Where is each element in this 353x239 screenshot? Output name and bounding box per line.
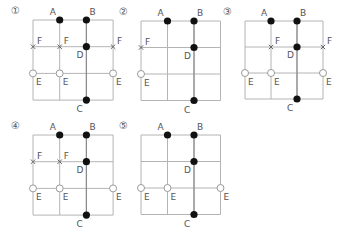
grid-diagram-3: ③EEEFFABDC — [223, 6, 332, 113]
point-label: F — [64, 151, 69, 161]
solid-dot-icon — [293, 95, 300, 102]
point-label: A — [50, 122, 57, 132]
point-label: C — [184, 105, 190, 115]
solid-dot-icon — [190, 97, 197, 104]
point-label: F — [37, 36, 42, 46]
solid-dot-icon — [83, 97, 90, 104]
solid-dot-icon — [293, 17, 300, 24]
solid-dot-icon — [83, 43, 90, 50]
open-circle-icon — [242, 70, 249, 77]
solid-dot-icon — [190, 211, 197, 218]
solid-dot-icon — [190, 44, 197, 51]
point-label: B — [89, 7, 95, 17]
solid-dot-icon — [164, 131, 171, 138]
solid-dot-icon — [164, 17, 171, 24]
grid-lines — [141, 21, 221, 101]
point-label: E — [224, 192, 230, 202]
diagram-number: ② — [119, 6, 128, 17]
point-label: F — [275, 36, 280, 46]
point-label: E — [63, 77, 69, 87]
open-circle-icon — [30, 185, 37, 192]
solid-dot-icon — [190, 17, 197, 24]
point-label: B — [197, 122, 203, 132]
open-circle-icon — [110, 185, 117, 192]
point-label: E — [116, 77, 122, 87]
open-circle-icon — [56, 185, 63, 192]
solid-dot-icon — [83, 16, 90, 23]
open-circle-icon — [320, 70, 327, 77]
point-label: E — [144, 192, 150, 202]
open-circle-icon — [138, 71, 145, 78]
solid-dot-icon — [83, 212, 90, 219]
point-label: F — [145, 37, 150, 47]
grid-diagram-5: ⑤EEEABDC — [119, 120, 230, 229]
open-circle-icon — [56, 70, 63, 77]
point-label: C — [76, 219, 82, 229]
open-circle-icon — [217, 185, 224, 192]
grid-lines — [245, 21, 323, 99]
point-label: E — [36, 192, 42, 202]
point-label: A — [158, 122, 165, 132]
grid-diagram-4: ④EEEFFABDC — [11, 120, 122, 229]
diagram-canvas: ①EEEFFFABDC②EFABDC③EEEFFABDC④EEEFFABDC⑤E… — [0, 0, 353, 239]
point-label: E — [144, 78, 150, 88]
open-circle-icon — [268, 70, 275, 77]
diagram-number: ③ — [223, 6, 232, 17]
open-circle-icon — [164, 185, 171, 192]
solid-dot-icon — [56, 16, 63, 23]
point-label: B — [89, 122, 95, 132]
point-label: D — [287, 50, 294, 60]
point-label: E — [248, 77, 254, 87]
point-label: E — [171, 192, 177, 202]
solid-dot-icon — [56, 131, 63, 138]
grid-lines — [141, 135, 221, 215]
open-circle-icon — [138, 185, 145, 192]
point-label: D — [76, 50, 83, 60]
point-label: F — [327, 36, 332, 46]
point-label: F — [64, 36, 69, 46]
point-label: D — [184, 165, 191, 175]
point-label: C — [184, 219, 190, 229]
solid-dot-icon — [267, 17, 274, 24]
diagram-number: ⑤ — [119, 120, 128, 131]
point-label: D — [184, 51, 191, 61]
open-circle-icon — [110, 70, 117, 77]
diagram-number: ① — [11, 5, 20, 16]
point-label: E — [63, 192, 69, 202]
grid-diagram-1: ①EEEFFFABDC — [11, 5, 122, 114]
point-label: E — [274, 77, 280, 87]
point-label: E — [326, 77, 332, 87]
point-label: A — [261, 8, 268, 18]
point-label: E — [36, 77, 42, 87]
point-label: F — [37, 151, 42, 161]
solid-dot-icon — [83, 131, 90, 138]
diagram-number: ④ — [11, 120, 20, 131]
solid-dot-icon — [293, 43, 300, 50]
solid-dot-icon — [190, 158, 197, 165]
solid-dot-icon — [190, 131, 197, 138]
point-label: C — [76, 104, 82, 114]
grid-diagram-2: ②EFABDC — [119, 6, 221, 115]
point-label: D — [76, 165, 83, 175]
open-circle-icon — [30, 70, 37, 77]
solid-dot-icon — [83, 158, 90, 165]
point-label: F — [117, 36, 122, 46]
point-label: A — [50, 7, 57, 17]
point-label: A — [158, 8, 165, 18]
grid-lines — [33, 20, 113, 100]
point-label: B — [300, 8, 306, 18]
point-label: B — [197, 8, 203, 18]
point-label: E — [116, 192, 122, 202]
point-label: C — [287, 103, 293, 113]
grid-lines — [33, 135, 113, 215]
